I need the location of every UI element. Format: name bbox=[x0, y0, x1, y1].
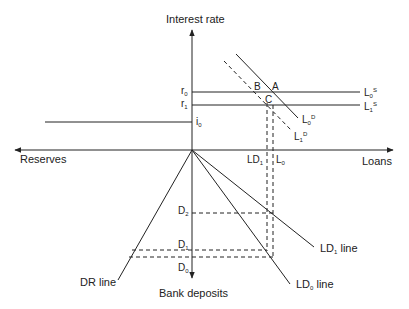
r1-label: r1 bbox=[181, 99, 188, 110]
x-axis-left-label: Reserves bbox=[20, 154, 66, 165]
d0-sub: 0 bbox=[185, 268, 188, 274]
x-axis-right-label: Loans bbox=[362, 156, 392, 167]
loan-demand-l0d bbox=[236, 54, 298, 118]
ld0-line-rest: line bbox=[313, 278, 333, 290]
l0d-sup: D bbox=[311, 114, 315, 120]
point-a: A bbox=[272, 82, 279, 92]
r1-sub: 1 bbox=[184, 104, 187, 110]
d2-sub: 2 bbox=[185, 211, 188, 217]
point-c: C bbox=[265, 95, 272, 105]
ld0-line-base: LD bbox=[296, 278, 310, 290]
l0d-sub: 0 bbox=[308, 120, 311, 126]
ld1-base: LD bbox=[247, 154, 260, 165]
l0s-sup: S bbox=[373, 87, 377, 93]
d0-label: D0 bbox=[178, 263, 189, 274]
i0-label: i0 bbox=[196, 117, 202, 128]
ld0-line bbox=[192, 150, 290, 284]
r0-sub: 0 bbox=[184, 91, 187, 97]
l0-sub: 0 bbox=[282, 160, 285, 166]
r0-label: r0 bbox=[181, 86, 188, 97]
i0-sub: 0 bbox=[198, 122, 201, 128]
ld1-sub: 1 bbox=[260, 160, 263, 166]
l1s-sub: 1 bbox=[370, 107, 373, 113]
point-b: B bbox=[254, 82, 261, 92]
l1d-sup: D bbox=[303, 131, 307, 137]
d2-label: D2 bbox=[178, 206, 189, 217]
l1s-sup: S bbox=[373, 101, 377, 107]
ld1-line-base: LD bbox=[320, 242, 334, 254]
l0s-label: L0S bbox=[364, 87, 377, 99]
y-axis-up-label: Interest rate bbox=[166, 14, 225, 25]
l1d-label: L1D bbox=[294, 131, 307, 143]
l1d-sub: 1 bbox=[300, 137, 303, 143]
ld0-line-label: LD0 line bbox=[296, 279, 334, 291]
loan-demand-l1d bbox=[224, 61, 291, 130]
ld1-line-label: LD1 line bbox=[320, 243, 358, 255]
l1s-label: L1S bbox=[364, 101, 377, 113]
dr-line-label: DR line bbox=[80, 277, 116, 288]
d1-label: D1 bbox=[178, 240, 189, 251]
ld1-axis-label: LD1 bbox=[247, 155, 263, 166]
l0s-sub: 0 bbox=[370, 93, 373, 99]
l0d-label: L0D bbox=[302, 114, 315, 126]
l0-axis-label: L0 bbox=[276, 155, 285, 166]
ld1-line-rest: line bbox=[337, 242, 357, 254]
y-axis-down-label: Bank deposits bbox=[159, 288, 228, 299]
d1-sub: 1 bbox=[185, 245, 188, 251]
